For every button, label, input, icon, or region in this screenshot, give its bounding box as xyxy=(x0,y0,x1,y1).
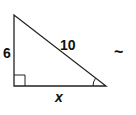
horizontal-leg-label: x xyxy=(55,90,63,104)
vertical-leg-label: 6 xyxy=(3,46,11,60)
side-mark-label: ~ xyxy=(114,44,123,60)
angle-arc-marker xyxy=(93,78,96,86)
right-angle-marker xyxy=(14,75,25,86)
hypotenuse-label: 10 xyxy=(60,38,76,52)
